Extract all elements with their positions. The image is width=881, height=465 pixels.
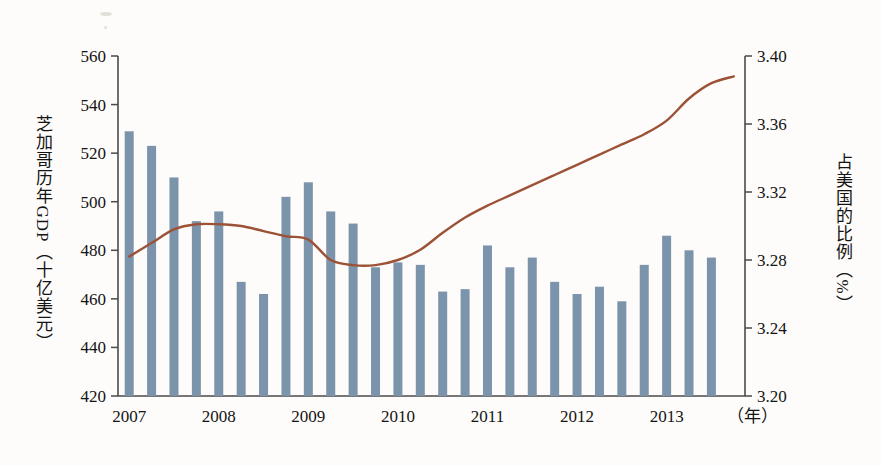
bar <box>304 182 313 396</box>
right-axis-tick-label: 3.28 <box>757 251 787 270</box>
bar <box>461 289 470 396</box>
right-axis-tick-label: 3.24 <box>757 319 787 338</box>
right-axis-tick-label: 3.36 <box>757 115 787 134</box>
left-axis-tick-label: 460 <box>81 290 107 309</box>
left-axis-tick-label: 540 <box>81 96 107 115</box>
bar <box>438 292 447 396</box>
bar <box>237 282 246 396</box>
bar <box>125 131 134 396</box>
bar <box>595 287 604 396</box>
bar <box>214 211 223 396</box>
left-axis-tick-label: 480 <box>81 241 107 260</box>
left-axis-tick-label: 420 <box>81 387 107 406</box>
bar <box>617 301 626 396</box>
bar <box>371 267 380 396</box>
x-axis-unit-label: （年） <box>727 407 778 426</box>
bar <box>349 224 358 396</box>
right-axis-tick-label: 3.20 <box>757 387 787 406</box>
x-axis-tick-label: 2011 <box>471 407 504 426</box>
plot-area: 4204404604805005205405603.203.243.283.32… <box>0 0 881 465</box>
bar <box>259 294 268 396</box>
bar <box>573 294 582 396</box>
scan-speck <box>104 26 107 29</box>
bar <box>393 262 402 396</box>
bar <box>416 265 425 396</box>
x-axis-tick-label: 2008 <box>202 407 236 426</box>
x-axis-tick-label: 2013 <box>650 407 684 426</box>
right-axis-tick-label: 3.40 <box>757 47 787 66</box>
bar <box>662 236 671 396</box>
bar <box>707 258 716 396</box>
left-axis-tick-label: 560 <box>81 47 107 66</box>
chart-svg: 4204404604805005205405603.203.243.283.32… <box>0 0 881 465</box>
left-axis-tick-label: 440 <box>81 338 107 357</box>
bar <box>326 211 335 396</box>
bar <box>528 258 537 396</box>
bar <box>281 197 290 396</box>
right-axis-tick-label: 3.32 <box>757 183 787 202</box>
bar <box>483 245 492 396</box>
bar <box>147 146 156 396</box>
bar <box>505 267 514 396</box>
bar <box>685 250 694 396</box>
x-axis-tick-label: 2010 <box>381 407 415 426</box>
bar <box>192 221 201 396</box>
scan-speck <box>100 12 112 16</box>
left-axis-tick-label: 520 <box>81 144 107 163</box>
x-axis-tick-label: 2012 <box>560 407 594 426</box>
x-axis-tick-label: 2007 <box>112 407 147 426</box>
left-axis-tick-label: 500 <box>81 193 107 212</box>
chart-figure: 芝加哥历年GDP（十亿美元） 占美国的比例（%） 420440460480500… <box>0 0 881 465</box>
x-axis-tick-label: 2009 <box>291 407 325 426</box>
bar <box>640 265 649 396</box>
bar <box>169 177 178 396</box>
bar <box>550 282 559 396</box>
